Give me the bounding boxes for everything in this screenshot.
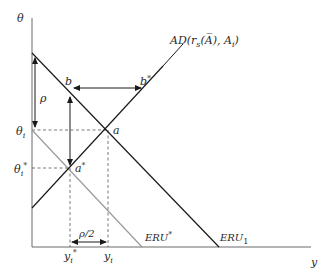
ad-label-leader: [163, 44, 183, 66]
y-i-star-label: yi*: [63, 248, 77, 265]
eru1-curve: [32, 53, 219, 247]
point-b-label: b: [65, 75, 72, 88]
y-i-label: yi: [103, 250, 113, 265]
theta-i-label: θi: [16, 125, 26, 140]
x-axis-label: y: [310, 256, 318, 269]
point-a-label: a: [113, 124, 120, 137]
eru-ad-diagram: θ y AD(rs(A̅), Ai) ERU* ERU1 a a* b b* θ…: [0, 0, 327, 277]
rho-label: ρ: [39, 92, 47, 105]
point-b-star-label: b*: [140, 74, 151, 88]
point-a-star-label: a*: [75, 161, 86, 175]
y-axis-label: θ: [17, 12, 24, 25]
eru1-label: ERU1: [219, 232, 248, 246]
theta-i-star-label: θi*: [14, 161, 27, 178]
eru-star-label: ERU*: [144, 230, 172, 243]
ad-curve-label: AD(rs(A̅), Ai): [169, 33, 239, 49]
rho-half-label: ρ/2: [78, 228, 95, 239]
